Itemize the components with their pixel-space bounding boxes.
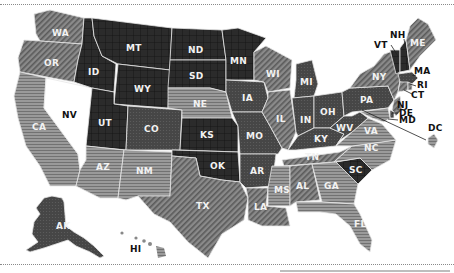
label-AZ: AZ <box>96 162 110 172</box>
label-IN: IN <box>300 115 311 125</box>
label-NC: NC <box>364 143 379 153</box>
label-MT: MT <box>126 43 142 53</box>
label-NV: NV <box>62 110 77 120</box>
label-ME: ME <box>410 38 426 48</box>
label-TX: TX <box>196 201 210 211</box>
label-DC: DC <box>428 123 443 133</box>
label-WI: WI <box>266 69 280 79</box>
label-GA: GA <box>324 181 339 191</box>
label-KS: KS <box>200 130 214 140</box>
label-KY: KY <box>314 134 328 144</box>
us-choropleth-map: WA OR CA ID MT WY UT CO AZ NM ND SD NE K… <box>0 0 454 273</box>
label-MN: MN <box>230 56 247 66</box>
label-SC: SC <box>349 165 363 175</box>
label-TN: TN <box>305 152 319 162</box>
label-WY: WY <box>134 84 151 94</box>
state-ND[interactable] <box>170 28 226 60</box>
label-MI: MI <box>300 77 313 87</box>
label-LA: LA <box>254 202 267 212</box>
label-WA: WA <box>52 28 69 38</box>
state-DC[interactable] <box>428 134 438 148</box>
label-OK: OK <box>210 161 226 171</box>
label-SD: SD <box>189 71 204 81</box>
label-IL: IL <box>276 114 286 124</box>
label-NM: NM <box>136 166 153 176</box>
state-CT[interactable] <box>398 82 408 92</box>
label-CA: CA <box>32 122 46 132</box>
label-ID: ID <box>88 67 99 77</box>
label-PA: PA <box>360 95 373 105</box>
map-svg: WA OR CA ID MT WY UT CO AZ NM ND SD NE K… <box>0 0 454 273</box>
label-NH: NH <box>390 30 406 40</box>
label-RI: RI <box>417 80 428 90</box>
label-MO: MO <box>246 131 263 141</box>
label-AK: AK <box>56 221 71 231</box>
label-OR: OR <box>44 58 59 68</box>
label-IA: IA <box>242 93 253 103</box>
label-VA: VA <box>364 126 378 136</box>
state-HI[interactable] <box>120 231 166 258</box>
state-WA[interactable] <box>34 10 84 44</box>
label-AL: AL <box>296 181 309 191</box>
label-NE: NE <box>193 99 207 109</box>
label-MD: MD <box>399 115 416 125</box>
label-FL: FL <box>354 219 366 229</box>
label-WV: WV <box>336 123 354 133</box>
label-MA: MA <box>414 66 431 76</box>
label-VT: VT <box>374 40 388 50</box>
label-OH: OH <box>320 107 336 117</box>
label-CO: CO <box>144 124 159 134</box>
label-AR: AR <box>250 166 265 176</box>
label-UT: UT <box>98 118 113 128</box>
label-HI: HI <box>130 244 141 254</box>
label-CT: CT <box>411 90 425 100</box>
label-ND: ND <box>188 45 204 55</box>
label-NY: NY <box>372 72 387 82</box>
label-MS: MS <box>274 185 290 195</box>
